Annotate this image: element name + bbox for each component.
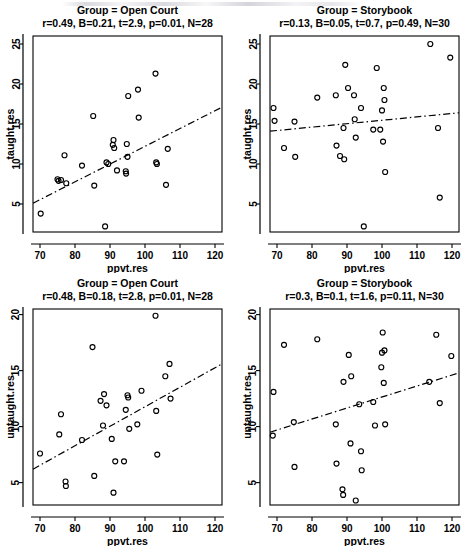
data-point bbox=[346, 352, 351, 357]
y-tick-label: 20 bbox=[11, 78, 22, 90]
data-point bbox=[341, 492, 346, 497]
data-point bbox=[80, 438, 85, 443]
data-point bbox=[164, 182, 169, 187]
data-point bbox=[271, 389, 276, 394]
data-point bbox=[341, 126, 346, 131]
data-point bbox=[434, 332, 439, 337]
data-point bbox=[38, 211, 43, 216]
data-point bbox=[291, 420, 296, 425]
x-tick-label: 120 bbox=[444, 523, 461, 534]
data-point bbox=[92, 183, 97, 188]
y-axis-title: untaught.res bbox=[4, 375, 16, 439]
data-point bbox=[103, 224, 108, 229]
data-point bbox=[381, 139, 386, 144]
data-point bbox=[340, 487, 345, 492]
data-point bbox=[380, 108, 385, 113]
data-point bbox=[293, 154, 298, 159]
data-point bbox=[80, 163, 85, 168]
x-tick-label: 90 bbox=[104, 250, 116, 261]
data-point bbox=[102, 392, 107, 397]
plot-frame bbox=[270, 309, 459, 505]
data-point bbox=[427, 379, 432, 384]
data-point bbox=[270, 433, 275, 438]
data-point bbox=[165, 146, 170, 151]
y-tick-label: 5 bbox=[248, 201, 259, 207]
x-tick-label: 80 bbox=[69, 250, 81, 261]
data-point bbox=[135, 422, 140, 427]
scatter-panel-bottom-left: Group = Open Courtr=0.48, B=0.18, t=2.8,… bbox=[0, 273, 237, 546]
data-point bbox=[383, 170, 388, 175]
x-tick-label: 90 bbox=[104, 523, 116, 534]
data-point bbox=[315, 337, 320, 342]
data-point bbox=[315, 95, 320, 100]
data-point bbox=[359, 468, 364, 473]
x-tick-label: 100 bbox=[374, 523, 391, 534]
data-point bbox=[111, 490, 116, 495]
plot-frame bbox=[33, 36, 222, 232]
x-axis-title: ppvt.res bbox=[107, 262, 148, 273]
data-point bbox=[124, 142, 129, 147]
x-tick-label: 100 bbox=[137, 250, 154, 261]
x-axis-title: ppvt.res bbox=[344, 535, 385, 546]
data-point bbox=[90, 345, 95, 350]
x-tick-label: 120 bbox=[207, 250, 224, 261]
y-tick-label: 25 bbox=[248, 38, 259, 50]
data-point bbox=[348, 441, 353, 446]
data-point bbox=[91, 114, 96, 119]
x-tick-label: 120 bbox=[207, 523, 224, 534]
y-tick-label: 5 bbox=[248, 479, 259, 485]
x-tick-label: 80 bbox=[306, 523, 318, 534]
data-point bbox=[57, 432, 62, 437]
y-tick-label: 15 bbox=[248, 365, 259, 377]
x-tick-label: 110 bbox=[409, 523, 426, 534]
scatter-panel-bottom-right: Group = Storybookr=0.3, B=0.1, t=1.6, p=… bbox=[237, 273, 474, 546]
data-point bbox=[163, 374, 168, 379]
x-tick-label: 90 bbox=[341, 250, 353, 261]
scatterplot-matrix-figure: Group = Open Courtr=0.49, B=0.21, t=2.9,… bbox=[0, 0, 474, 547]
data-point bbox=[349, 374, 354, 379]
data-point bbox=[359, 449, 364, 454]
data-point bbox=[292, 464, 297, 469]
data-point bbox=[373, 423, 378, 428]
data-point bbox=[282, 146, 287, 151]
data-point bbox=[92, 473, 97, 478]
data-point bbox=[115, 168, 120, 173]
data-point bbox=[139, 388, 144, 393]
data-point bbox=[428, 42, 433, 47]
data-point bbox=[334, 461, 339, 466]
x-tick-label: 70 bbox=[271, 250, 283, 261]
y-tick-label: 5 bbox=[11, 479, 22, 485]
regression-line bbox=[33, 107, 222, 203]
panel-stats: r=0.48, B=0.18, t=2.8, p=0.01, N=28 bbox=[42, 290, 213, 302]
data-point bbox=[346, 86, 351, 91]
data-point bbox=[109, 436, 114, 441]
data-point bbox=[104, 403, 109, 408]
y-tick-label: 15 bbox=[11, 365, 22, 377]
data-points bbox=[271, 42, 453, 229]
data-point bbox=[136, 87, 141, 92]
plot-frame bbox=[33, 309, 222, 505]
data-points bbox=[38, 71, 170, 229]
x-tick-label: 110 bbox=[172, 523, 189, 534]
data-point bbox=[123, 407, 128, 412]
y-axis-title: untaught.res bbox=[241, 375, 253, 439]
data-point bbox=[98, 398, 103, 403]
scatter-panel-top-right: Group = Storybookr=0.13, B=0.05, t=0.7, … bbox=[237, 0, 474, 273]
data-point bbox=[436, 126, 441, 131]
panel-stats: r=0.49, B=0.21, t=2.9, p=0.01, N=28 bbox=[42, 17, 213, 29]
data-point bbox=[153, 71, 158, 76]
y-tick-label: 5 bbox=[11, 201, 22, 207]
data-point bbox=[449, 354, 454, 359]
data-point bbox=[333, 93, 338, 98]
data-point bbox=[168, 396, 173, 401]
data-point bbox=[113, 459, 118, 464]
regression-line bbox=[270, 373, 459, 432]
data-point bbox=[353, 498, 358, 503]
x-tick-label: 110 bbox=[409, 250, 426, 261]
y-tick-label: 20 bbox=[248, 78, 259, 90]
data-point bbox=[437, 195, 442, 200]
data-point bbox=[155, 452, 160, 457]
y-axis-title: taught.res bbox=[4, 108, 16, 159]
panel-title: Group = Storybook bbox=[317, 277, 413, 289]
panel-title: Group = Storybook bbox=[317, 4, 413, 16]
